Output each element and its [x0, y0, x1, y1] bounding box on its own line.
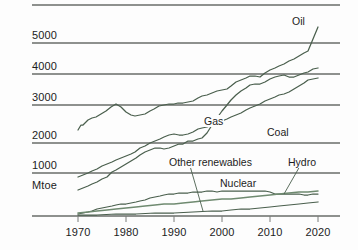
series-lines	[78, 27, 318, 215]
y-axis-label-1000: 1000	[32, 159, 57, 171]
gridlines	[32, 5, 340, 216]
energy-consumption-chart: 5000 4000 3000 2000 1000 Mtoe 1970 1980 …	[0, 0, 358, 250]
x-axis-label-2010: 2010	[258, 226, 283, 238]
series-label-hydro: Hydro	[287, 156, 317, 168]
x-axis-label-1980: 1980	[114, 226, 139, 238]
series-label-gas: Gas	[203, 115, 224, 127]
leader-hydro	[284, 166, 300, 194]
y-axis-label-3000: 3000	[32, 91, 57, 103]
x-axis-label-2000: 2000	[210, 226, 235, 238]
series-label-coal: Coal	[266, 126, 290, 138]
y-axis-label-5000: 5000	[32, 29, 57, 41]
y-axis-label-4000: 4000	[32, 60, 57, 72]
y-axis-label-2000: 2000	[32, 129, 57, 141]
series-label-nuclear: Nuclear	[219, 177, 257, 189]
series-label-oil: Oil	[291, 15, 306, 27]
x-axis-label-1990: 1990	[162, 226, 187, 238]
series-label-other-renewables: Other renewables	[168, 156, 253, 168]
x-axis-label-2020: 2020	[306, 226, 331, 238]
x-axis-label-1970: 1970	[66, 226, 91, 238]
x-axis-ticks	[78, 216, 318, 222]
y-axis-unit-label-mtoe: Mtoe	[32, 179, 57, 191]
